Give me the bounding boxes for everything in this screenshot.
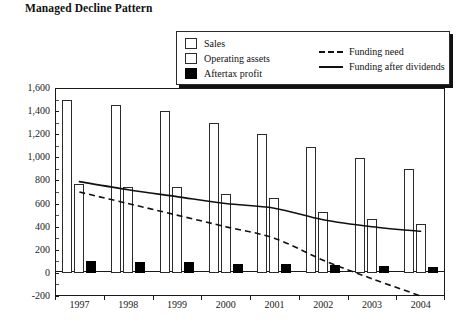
legend-item-label: Sales: [204, 38, 225, 49]
x-tick-label: 2000: [202, 299, 250, 311]
y-tick-label: 1,400: [8, 106, 50, 116]
line-swatch-segment: [319, 66, 343, 68]
open-square-icon: [185, 38, 197, 49]
x-tick-label: 2002: [299, 299, 347, 311]
dashed-line-icon: [319, 46, 343, 57]
legend-item-aftertax-profit[interactable]: Aftertax profit: [185, 66, 270, 81]
y-tick-label: -200: [8, 291, 50, 301]
open-square-icon: [185, 53, 197, 64]
y-tick-label: 1,600: [8, 83, 50, 93]
y-axis-labels: 1,6001,4001,2001,0008006004002000-200: [4, 88, 50, 296]
legend-item-label: Funding need: [349, 46, 404, 57]
legend-bar-column: SalesOperating assetsAftertax profit: [185, 36, 270, 81]
y-tick-label: 600: [8, 199, 50, 209]
x-tick-label: 1998: [104, 299, 152, 311]
figure: Managed Decline Pattern 1,6001,4001,2001…: [0, 0, 456, 331]
x-tick-label: 1997: [55, 299, 103, 311]
y-tick-label: 200: [8, 245, 50, 255]
solid-line-icon: [319, 61, 343, 72]
filled-square-icon: [185, 68, 197, 79]
legend: SalesOperating assetsAftertax profit Fun…: [176, 31, 450, 85]
legend-item-label: Funding after dividends: [349, 61, 445, 72]
legend-item-funding-need[interactable]: Funding need: [319, 44, 445, 59]
x-tick-label: 2004: [397, 299, 445, 311]
funding-after-dividends-line: [79, 182, 420, 232]
x-tick-label: 2003: [348, 299, 396, 311]
legend-item-label: Aftertax profit: [204, 68, 262, 79]
legend-item-funding-after-dividends[interactable]: Funding after dividends: [319, 59, 445, 74]
x-axis-labels: 19971998199920002001200220032004: [55, 299, 445, 315]
line-series-layer: [55, 88, 445, 296]
plot-area: [55, 88, 445, 296]
y-tick-label: 1,200: [8, 129, 50, 139]
legend-item-sales[interactable]: Sales: [185, 36, 270, 51]
page-title: Managed Decline Pattern: [25, 2, 153, 14]
legend-item-label: Operating assets: [204, 53, 270, 64]
x-tick-label: 2001: [250, 299, 298, 311]
legend-line-column: Funding needFunding after dividends: [319, 44, 445, 74]
funding-need-line: [79, 192, 420, 296]
y-tick-label: 0: [8, 268, 50, 278]
line-swatch-segment: [319, 51, 343, 53]
x-tick-label: 1999: [153, 299, 201, 311]
y-tick-label: 800: [8, 175, 50, 185]
legend-item-operating-assets[interactable]: Operating assets: [185, 51, 270, 66]
y-tick-label: 400: [8, 222, 50, 232]
y-tick-label: 1,000: [8, 152, 50, 162]
